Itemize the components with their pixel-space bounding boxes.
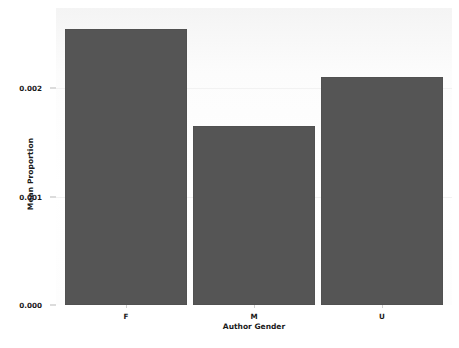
x-tick-mark-slot-0 — [62, 305, 190, 310]
plot-area — [56, 8, 452, 305]
x-tick-mark-0 — [126, 305, 127, 308]
x-axis-label: Author Gender — [56, 322, 452, 331]
bar-f[interactable] — [65, 29, 187, 305]
bar-slot-u — [318, 8, 446, 305]
bar-chart-figure: Mean Proportion 0.000 0.001 0.002 — [0, 0, 459, 348]
bar-slot-m — [190, 8, 318, 305]
x-tick-mark-1 — [254, 305, 255, 308]
x-tick-mark-slot-2 — [318, 305, 446, 310]
x-axis-tick-marks — [56, 305, 452, 310]
y-tick-label-2: 0.002 — [0, 84, 42, 93]
y-tick-label-0: 0.000 — [0, 301, 42, 310]
x-tick-mark-2 — [382, 305, 383, 308]
bar-u[interactable] — [321, 77, 443, 305]
y-axis-tick-labels: 0.000 0.001 0.002 — [0, 0, 42, 348]
y-tick-label-1: 0.001 — [0, 192, 42, 201]
bar-slot-f — [62, 8, 190, 305]
x-tick-mark-slot-1 — [190, 305, 318, 310]
bar-m[interactable] — [193, 126, 315, 305]
bar-group — [56, 8, 452, 305]
